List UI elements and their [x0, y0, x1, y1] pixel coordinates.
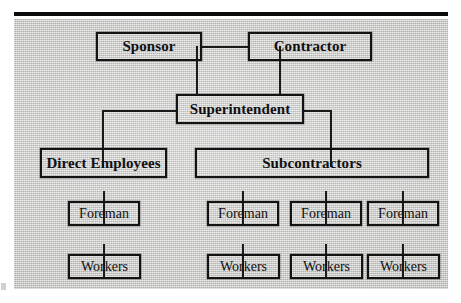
edge-sponsor-contractor: [201, 46, 249, 48]
node-direct-employees[interactable]: Direct Employees: [40, 148, 167, 178]
node-workers-3[interactable]: Workers: [290, 254, 363, 279]
node-workers-4-label: Workers: [380, 260, 427, 274]
edge-superintendent-right-stub: [304, 110, 332, 112]
node-sponsor-label: Sponsor: [122, 39, 175, 54]
node-workers-1[interactable]: Workers: [68, 254, 141, 279]
node-subcontractors[interactable]: Subcontractors: [195, 148, 429, 178]
node-workers-2-label: Workers: [220, 260, 267, 274]
org-chart-panel: Sponsor Contractor Superintendent Direct…: [14, 19, 448, 289]
scan-artifact: [1, 283, 6, 290]
node-contractor-label: Contractor: [274, 39, 347, 54]
edge-superintendent-left-stub: [102, 110, 177, 112]
node-foreman-2[interactable]: Foreman: [207, 201, 279, 226]
node-foreman-2-label: Foreman: [218, 207, 268, 221]
page-top-rule: [14, 12, 448, 16]
node-direct-employees-label: Direct Employees: [46, 156, 160, 171]
node-workers-4[interactable]: Workers: [367, 254, 440, 279]
scanned-page: Sponsor Contractor Superintendent Direct…: [0, 0, 461, 303]
node-superintendent[interactable]: Superintendent: [176, 94, 304, 124]
node-subcontractors-label: Subcontractors: [262, 156, 362, 171]
node-contractor[interactable]: Contractor: [248, 32, 372, 61]
node-foreman-3[interactable]: Foreman: [290, 201, 362, 226]
node-workers-2[interactable]: Workers: [207, 254, 280, 279]
node-foreman-1[interactable]: Foreman: [68, 201, 140, 226]
node-superintendent-label: Superintendent: [190, 102, 291, 117]
node-workers-1-label: Workers: [81, 260, 128, 274]
node-foreman-3-label: Foreman: [301, 207, 351, 221]
node-sponsor[interactable]: Sponsor: [96, 32, 202, 61]
node-foreman-4-label: Foreman: [378, 207, 428, 221]
node-foreman-1-label: Foreman: [79, 207, 129, 221]
node-workers-3-label: Workers: [303, 260, 350, 274]
node-foreman-4[interactable]: Foreman: [367, 201, 439, 226]
